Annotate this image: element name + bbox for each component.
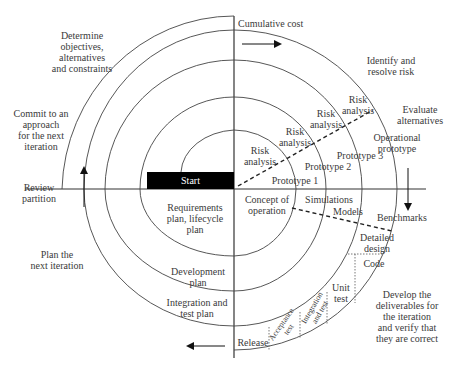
quadrant-identify-risk: Identify and resolve risk	[356, 55, 426, 77]
integration-test-plan: Integration and test plan	[160, 297, 234, 319]
review-partition-label: Review partition	[22, 182, 56, 204]
risk-analysis-1: Risk analysis	[240, 145, 280, 167]
development-plan: Development plan	[170, 266, 226, 288]
quadrant-develop-deliverables: Develop the deliverables for the iterati…	[362, 289, 452, 344]
operational-prototype: Operational prototype	[365, 132, 429, 154]
requirements-plan: Requirements plan, lifecycle plan	[162, 202, 228, 235]
code-label: Code	[358, 258, 390, 269]
models-label: Models	[330, 206, 366, 217]
prototype-1: Prototype 1	[265, 175, 325, 186]
risk-analysis-4: Risk analysis	[338, 94, 378, 116]
simulations-label: Simulations	[302, 194, 356, 205]
commit-approach-label: Commit to an approach for the next itera…	[10, 108, 72, 152]
start-box: Start	[147, 172, 234, 189]
evaluate-alternatives-label: Evaluate alternatives	[388, 104, 452, 126]
unit-test-label: Unit test	[328, 282, 354, 304]
concept-of-operation: Concept of operation	[240, 194, 294, 216]
quadrant-determine-objectives: Determine objectives, alternatives and c…	[47, 30, 117, 74]
prototype-2: Prototype 2	[298, 161, 358, 172]
benchmarks-label: Benchmarks	[372, 212, 432, 223]
quadrant-plan-next-iteration: Plan the next iteration	[26, 249, 88, 271]
cumulative-cost-label: Cumulative cost	[238, 18, 303, 29]
release-label: Release	[236, 337, 270, 348]
detailed-design-label: Detailed design	[355, 232, 399, 254]
